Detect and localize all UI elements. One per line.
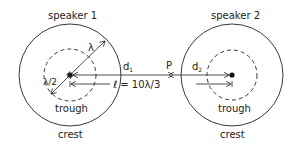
separation-label: ℓ = 10λ/3 (113, 79, 160, 90)
d2-label: d2 (192, 61, 202, 73)
speaker-2-trough-label: trough (218, 103, 251, 114)
speaker-1-source-dot (67, 72, 72, 77)
speaker-2-crest-label: crest (220, 129, 245, 140)
half-lambda-label: λ/2 (43, 77, 57, 87)
speaker-1-trough-label: trough (55, 103, 88, 114)
speaker-2-label: speaker 2 (211, 10, 260, 21)
point-p-label: P (166, 60, 172, 71)
wave-interference-diagram: speaker 1 λ λ/2 trough crest speaker 2 t… (0, 0, 294, 146)
lambda-label: λ (88, 42, 94, 53)
speaker-1-label: speaker 1 (48, 10, 97, 21)
d1-label: d1 (123, 61, 133, 73)
speaker-1-crest-label: crest (58, 129, 83, 140)
diagram-canvas: speaker 1 λ λ/2 trough crest speaker 2 t… (0, 0, 294, 146)
speaker-2-source-dot (229, 72, 234, 77)
